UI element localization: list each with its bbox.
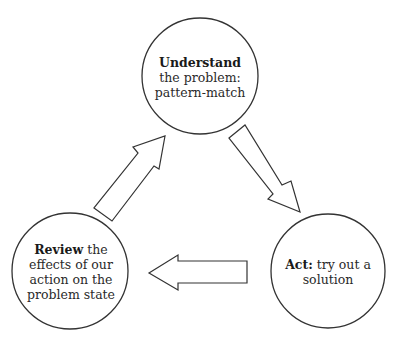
node-act-title: Act: (285, 257, 313, 272)
node-understand-line-2: pattern-match (155, 85, 246, 100)
node-understand-title: Understand (159, 55, 241, 70)
node-act: Act: try out a solution (285, 257, 371, 287)
node-act-line-1: try out a (317, 257, 371, 272)
node-review-title-line: Review the (27, 242, 115, 257)
node-review-line-3: action on the (27, 272, 115, 287)
node-understand: Understand the problem: pattern-match (155, 55, 246, 100)
node-understand-line-1: the problem: (155, 70, 246, 85)
arrow-up-right-icon (94, 136, 165, 221)
node-act-line-2: solution (285, 272, 371, 287)
node-review-title: Review (34, 242, 83, 257)
node-review-line-4: problem state (27, 287, 115, 302)
node-act-title-line: Act: try out a (285, 257, 371, 272)
node-review-line-2: effects of our (27, 257, 115, 272)
arrow-left-icon (149, 255, 247, 290)
node-understand-title-line: Understand (155, 55, 246, 70)
node-review: Review the effects of our action on the … (27, 242, 115, 302)
node-review-line-1: the (87, 242, 107, 257)
arrow-down-right-icon (229, 125, 300, 212)
